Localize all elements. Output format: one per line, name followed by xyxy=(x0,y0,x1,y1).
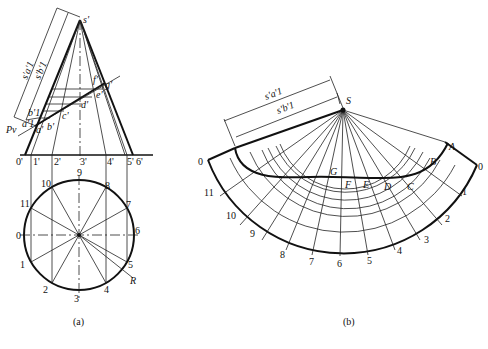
front-view: s' Pv s'a'1 s'b'1 a' b' c' d' e' f' g' a… xyxy=(5,8,153,167)
arc-label-0-right: 0 xyxy=(478,161,483,172)
caption-b: (b) xyxy=(343,316,355,328)
helper-b1-label: b'1 xyxy=(28,107,40,118)
curve-point-G: G xyxy=(330,166,337,177)
base-label-5: 5' xyxy=(127,156,134,167)
radius-label: R xyxy=(129,275,136,286)
circle-label-5: 5 xyxy=(128,259,133,270)
curve-point-F: F xyxy=(344,179,352,190)
circle-label-7: 7 xyxy=(126,199,131,210)
outer-arc xyxy=(208,160,477,253)
circle-label-3: 3 xyxy=(74,293,79,304)
arc-label-0-left: 0 xyxy=(198,156,203,167)
circle-label-10: 10 xyxy=(41,178,51,189)
circle-label-1: 1 xyxy=(20,259,25,270)
helper-a1-label: a'1 xyxy=(22,118,34,129)
circle-label-9: 9 xyxy=(77,167,82,178)
dim-label-sb1: s'b'1 xyxy=(32,60,49,81)
arc-label-7: 7 xyxy=(309,256,314,267)
circle-label-8: 8 xyxy=(105,180,110,191)
curve-point-B: B xyxy=(430,156,436,167)
curve-point-C: C xyxy=(407,181,414,192)
arc-label-10: 10 xyxy=(226,210,236,221)
circle-label-0: 0 xyxy=(16,230,21,241)
arc-label-6: 6 xyxy=(337,258,342,269)
caption-a: (a) xyxy=(73,316,84,328)
cone-section-development-drawing: s' Pv s'a'1 s'b'1 a' b' c' d' e' f' g' a… xyxy=(0,0,488,349)
point-g-label: g' xyxy=(105,79,113,90)
point-a-label: a' xyxy=(36,124,44,135)
arc-label-1: 1 xyxy=(462,186,467,197)
base-label-0: 0' xyxy=(16,156,23,167)
circle-label-4: 4 xyxy=(104,284,109,295)
arc-label-3: 3 xyxy=(424,234,429,245)
base-label-2: 2' xyxy=(54,156,61,167)
dev-dim-label-sb1: s'b'1 xyxy=(275,99,296,116)
arc-label-11: 11 xyxy=(204,187,214,198)
base-label-4: 4' xyxy=(107,156,114,167)
curve-point-D: D xyxy=(383,181,392,192)
point-c-label: c' xyxy=(62,110,69,121)
circle-label-6: 6 xyxy=(135,225,140,236)
point-e-label: e' xyxy=(96,89,103,100)
cone-left-edge xyxy=(25,20,80,155)
curve-point-A: A xyxy=(448,141,456,152)
base-label-3: 3' xyxy=(80,156,87,167)
top-view: 0 1 2 3 4 5 6 7 8 9 10 11 R (a) xyxy=(16,155,140,328)
curve-point-E: E xyxy=(362,179,369,190)
point-f-label: f' xyxy=(93,74,99,85)
arc-label-4: 4 xyxy=(397,245,402,256)
circle-label-2: 2 xyxy=(43,284,48,295)
arc-label-5: 5 xyxy=(367,255,372,266)
dev-apex-label: S xyxy=(346,95,351,106)
arc-label-9: 9 xyxy=(250,228,255,239)
arc-label-8: 8 xyxy=(280,249,285,260)
base-label-6: 6' xyxy=(136,156,143,167)
arc-label-2: 2 xyxy=(445,213,450,224)
development-view: S s'a'1 s'b'1 A B C D E F G 0 11 10 9 8 … xyxy=(198,76,483,328)
plane-label: Pv xyxy=(5,124,17,135)
point-b-label: b' xyxy=(47,121,55,132)
base-label-1: 1' xyxy=(33,156,40,167)
apex-label: s' xyxy=(83,14,90,25)
circle-label-11: 11 xyxy=(20,198,30,209)
point-d-label: d' xyxy=(81,99,89,110)
